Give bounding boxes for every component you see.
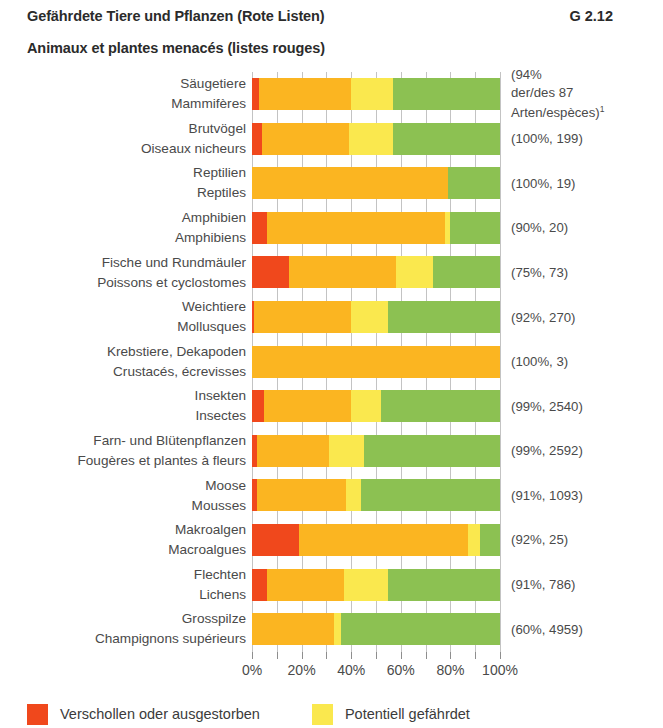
bar-segment (364, 435, 500, 467)
row-note: (99%, 2540) (511, 384, 661, 429)
bar-segment (299, 524, 468, 556)
bar-segment (351, 390, 381, 422)
category-labels: GrosspilzeChampignons supérieurs (0, 607, 246, 652)
stacked-bar[interactable] (252, 256, 500, 288)
bar-segment (393, 123, 500, 155)
category-labels: BrutvögelOiseaux nicheurs (0, 117, 246, 162)
chart-row: FlechtenLichens(91%, 786) (0, 563, 663, 608)
chart-row: AmphibienAmphibiens(90%, 20) (0, 206, 663, 251)
bar-area (252, 569, 500, 601)
stacked-bar[interactable] (252, 613, 500, 645)
category-label-fr: Mollusques (177, 317, 246, 337)
chart-row: Fische und RundmäulerPoissons et cyclost… (0, 250, 663, 295)
bar-segment (289, 256, 396, 288)
bar-segment (448, 167, 500, 199)
bar-segment (329, 435, 364, 467)
chart-row: InsektenInsectes(99%, 2540) (0, 384, 663, 429)
category-labels: WeichtiereMollusques (0, 295, 246, 340)
category-label-fr: Crustacés, écrevisses (113, 362, 246, 382)
category-labels: Fische und RundmäulerPoissons et cyclost… (0, 250, 246, 295)
row-note: (75%, 73) (511, 250, 661, 295)
x-axis-ticks (252, 652, 500, 662)
row-note-line: (91%, 1093) (511, 487, 661, 505)
row-note-line: (92%, 270) (511, 309, 661, 327)
row-note-line: (94% (511, 66, 661, 84)
axis-tick-label: 60% (387, 662, 415, 678)
category-label-fr: Oiseaux nicheurs (141, 139, 246, 159)
category-label-fr: Insectes (195, 406, 246, 426)
category-labels: SäugetiereMammifères (0, 72, 246, 117)
stacked-bar[interactable] (252, 167, 500, 199)
bar-area (252, 78, 500, 110)
chart-legend: Verschollen oder ausgestorbenPotentiell … (27, 700, 647, 728)
row-note-line: (99%, 2592) (511, 442, 661, 460)
category-label-fr: Poissons et cyclostomes (97, 273, 246, 293)
stacked-bar[interactable] (252, 479, 500, 511)
row-note-line: (60%, 4959) (511, 621, 661, 639)
page-title-de: Gefährdete Tiere und Pflanzen (Rote List… (27, 8, 325, 24)
category-label-fr: Amphibiens (175, 228, 246, 248)
stacked-bar[interactable] (252, 346, 500, 378)
stacked-bar[interactable] (252, 212, 500, 244)
legend-label: Verschollen oder ausgestorben (60, 706, 260, 722)
category-label-fr: Fougères et plantes à fleurs (77, 451, 246, 471)
category-label-de: Brutvögel (189, 119, 246, 139)
axis-tick (326, 652, 327, 659)
x-axis-labels: 0%20%40%60%80%100% (200, 662, 620, 684)
category-label-de: Säugetiere (180, 74, 246, 94)
axis-tick-label: 20% (288, 662, 316, 678)
category-label-de: Krebstiere, Dekapoden (107, 342, 246, 362)
bar-segment (252, 123, 262, 155)
stacked-bar[interactable] (252, 123, 500, 155)
row-note-line: (100%, 199) (511, 130, 661, 148)
figure-code: G 2.12 (569, 8, 637, 24)
row-note-line: (92%, 25) (511, 531, 661, 549)
bar-segment (433, 256, 500, 288)
category-labels: Krebstiere, DekapodenCrustacés, écreviss… (0, 340, 246, 385)
row-note: (92%, 25) (511, 518, 661, 563)
legend-swatch (312, 704, 333, 725)
bar-segment (252, 256, 289, 288)
stacked-bar[interactable] (252, 569, 500, 601)
category-label-de: Insekten (195, 386, 246, 406)
category-label-de: Amphibien (182, 208, 246, 228)
bar-area (252, 613, 500, 645)
bar-segment (351, 78, 393, 110)
axis-tick (302, 652, 303, 659)
category-labels: MakroalgenMacroalgues (0, 518, 246, 563)
chart-row: GrosspilzeChampignons supérieurs(60%, 49… (0, 607, 663, 652)
bar-segment (259, 78, 351, 110)
stacked-bar[interactable] (252, 435, 500, 467)
bar-area (252, 256, 500, 288)
chart-row: Krebstiere, DekapodenCrustacés, écreviss… (0, 340, 663, 385)
bar-segment (480, 524, 500, 556)
stacked-bar[interactable] (252, 390, 500, 422)
chart-row: WeichtiereMollusques(92%, 270) (0, 295, 663, 340)
bar-segment (346, 479, 361, 511)
bar-segment (468, 524, 480, 556)
bar-segment (381, 390, 500, 422)
row-note-line: (90%, 20) (511, 219, 661, 237)
row-note: (92%, 270) (511, 295, 661, 340)
bar-segment (252, 390, 264, 422)
stacked-bar[interactable] (252, 78, 500, 110)
row-note: (60%, 4959) (511, 607, 661, 652)
axis-tick-label: 0% (242, 662, 262, 678)
chart-header: Gefährdete Tiere und Pflanzen (Rote List… (27, 8, 637, 56)
bar-segment (252, 524, 299, 556)
legend-swatch (27, 704, 48, 725)
stacked-bar[interactable] (252, 301, 500, 333)
bar-area (252, 435, 500, 467)
bar-segment (262, 123, 349, 155)
axis-tick (252, 652, 253, 659)
bar-area (252, 346, 500, 378)
stacked-bar[interactable] (252, 524, 500, 556)
bar-segment (267, 569, 344, 601)
chart-row: MooseMousses(91%, 1093) (0, 473, 663, 518)
axis-tick (500, 652, 501, 659)
bar-segment (267, 212, 446, 244)
category-label-de: Makroalgen (175, 520, 246, 540)
row-note: (91%, 1093) (511, 473, 661, 518)
chart-row: Farn- und BlütenpflanzenFougères et plan… (0, 429, 663, 474)
row-note: (91%, 786) (511, 563, 661, 608)
